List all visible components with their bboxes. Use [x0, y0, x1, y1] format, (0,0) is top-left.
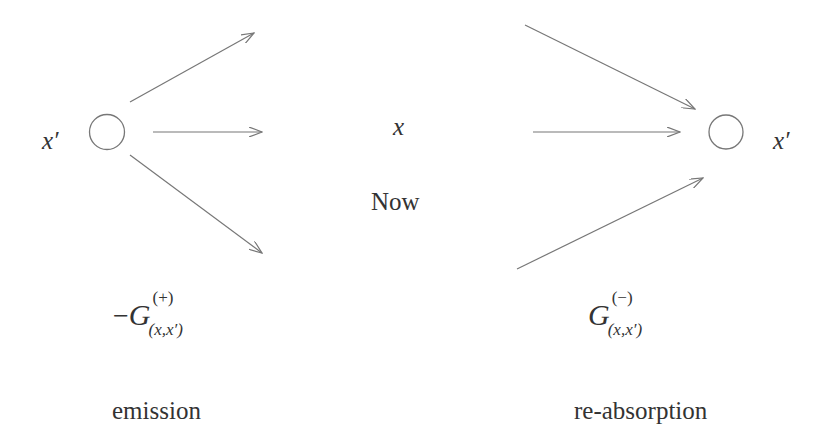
center-point-label: x — [393, 114, 404, 139]
emission-arrow-up-icon — [130, 33, 254, 102]
left-point-circle-icon — [90, 115, 125, 150]
emission-green-superscript: (+) — [152, 289, 173, 306]
reabsorption-green-subscript: (x,x′) — [608, 321, 642, 338]
reabsorption-arrow-up-icon — [525, 25, 695, 109]
diagram-canvas — [0, 0, 835, 438]
left-point-label: x′ — [42, 128, 59, 153]
reabsorption-green-function: G(−)(x,x′) — [588, 300, 610, 330]
emission-green-subscript: (x,x′) — [148, 321, 182, 338]
reabsorption-arrows — [517, 25, 703, 269]
emission-green-symbol: G — [129, 298, 151, 331]
now-label: Now — [371, 189, 420, 214]
reabsorption-green-superscript: (−) — [612, 289, 633, 306]
right-point-circle-icon — [709, 115, 743, 149]
emission-green-function: −G(+)(x,x′) — [113, 300, 150, 330]
emission-caption: emission — [112, 398, 201, 423]
emission-arrow-down-icon — [130, 155, 262, 253]
emission-green-sign: − — [113, 300, 129, 331]
reabsorption-green-symbol: G — [588, 298, 610, 331]
right-point-label: x′ — [773, 128, 790, 153]
reabsorption-arrow-down-icon — [517, 178, 703, 269]
reabsorption-caption: re-absorption — [574, 398, 707, 423]
emission-arrows — [130, 33, 262, 253]
